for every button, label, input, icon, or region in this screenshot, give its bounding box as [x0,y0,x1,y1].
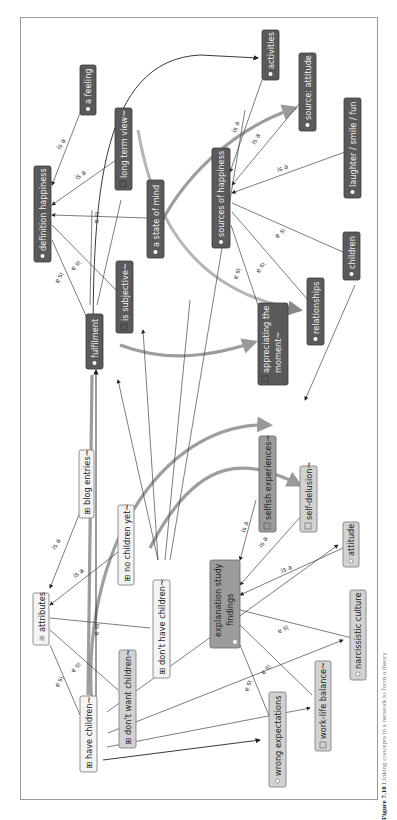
svg-text:is a: is a [250,132,262,146]
memo-icon [120,181,126,187]
svg-text:attitude: attitude [346,524,356,556]
node-have-children[interactable]: ⊞ have children~ [80,696,97,772]
bullet-icon [349,559,353,563]
figure-caption: Figure 7.10 Linking concepts in a networ… [380,652,388,820]
bullet-icon [356,672,360,676]
bullet-icon [86,107,90,111]
svg-text:laughter / smile / fun: laughter / smile / fun [348,102,358,188]
svg-text:is a: is a [93,624,101,635]
svg-text:is a: is a [243,679,254,692]
svg-text:is a: is a [53,271,65,285]
document-group-icon: ⊞ [123,738,133,745]
caption-text: Linking concepts in a network to form a … [380,652,388,784]
bullet-icon [351,190,355,194]
concept-network-diagram: is a is a is a is a is a is a is a is a … [0,0,397,820]
svg-text:is a: is a [74,169,88,182]
node-attitude[interactable]: attitude [343,522,359,567]
memo-icon [121,324,127,330]
node-dont-have-children[interactable]: ⊞ don't have children~ [153,579,170,678]
document-group-icon: ⊞ [84,762,94,769]
svg-text:selfish experiences~: selfish experiences~ [263,435,273,520]
node-children[interactable]: children [343,232,360,280]
svg-text:is a: is a [259,663,272,677]
svg-text:source: attitude: source: attitude [303,55,313,120]
svg-text:is a: is a [257,535,270,549]
svg-text:sources of happiness: sources of happiness [216,151,226,237]
svg-text:is a: is a [280,563,293,575]
memo-icon [320,742,326,748]
svg-text:definition happiness: definition happiness [38,168,48,251]
node-sources-of-happiness[interactable]: sources of happiness [212,148,230,248]
svg-text:moment~: moment~ [273,332,283,373]
node-work-life-balance[interactable]: work-life balance~ [315,661,331,751]
svg-text:work-life balance~: work-life balance~ [318,662,328,739]
svg-text:appreciating the: appreciating the [261,306,271,373]
svg-text:attributes: attributes [37,592,47,632]
gear-icon: ☼ [37,635,47,642]
svg-text:is a: is a [55,137,68,151]
svg-text:have children~: have children~ [84,697,94,759]
bullet-icon [233,640,237,644]
bullet-icon [93,361,97,365]
node-a-feeling[interactable]: a feeling [80,65,96,115]
svg-text:is a: is a [274,227,288,241]
node-fulfilment[interactable]: fulfilment [86,314,103,369]
svg-text:narcissistic culture: narcissistic culture [353,593,363,669]
node-relationships[interactable]: relationships [307,278,324,345]
bullet-icon [314,337,318,341]
nodes: a feeling definition happiness long term… [33,30,366,787]
svg-text:is a: is a [72,567,86,580]
memo-icon [264,523,270,529]
document-group-icon: ⊞ [82,508,92,515]
node-no-children-yet[interactable]: ⊞ no children yet~ [118,504,134,585]
node-self-delusion[interactable]: self-delusion~ [300,462,317,532]
node-is-subjective[interactable]: is subjective~ [116,261,133,333]
node-dont-want-children[interactable]: ⊞ don't want children~ [119,649,136,748]
bullet-icon [41,254,45,258]
svg-text:relationships: relationships [311,282,321,334]
svg-text:is a: is a [230,120,241,133]
memo-icon [305,523,311,529]
svg-text:is subjective~: is subjective~ [120,263,130,321]
svg-text:is a: is a [232,267,243,280]
node-appreciating-the-moment[interactable]: appreciating the moment~ [258,303,288,385]
svg-text:is a: is a [53,675,65,689]
bullet-icon [350,272,354,276]
svg-text:is a: is a [69,661,82,675]
bullet-icon [269,72,273,76]
node-blog-entries[interactable]: ⊞ blog entries~ [79,449,94,518]
svg-text:explanation study: explanation study [213,563,223,637]
svg-text:is a: is a [50,537,63,551]
node-attributes[interactable]: ☼ attributes [33,592,49,645]
node-laughter-smile-fun[interactable]: laughter / smile / fun [344,98,361,198]
node-long-term-view[interactable]: long term view~ [115,108,132,190]
caption-label: Figure 7.10 [380,786,388,820]
svg-text:is a: is a [239,520,250,533]
bullet-icon [306,123,310,127]
svg-text:no children yet~: no children yet~ [122,504,132,572]
node-wrong-expectations[interactable]: wrong expectations [269,692,286,787]
svg-text:is a: is a [276,163,289,174]
document-group-icon: ⊞ [122,575,132,582]
bullet-icon [154,250,158,254]
svg-text:activities: activities [266,32,276,69]
svg-text:long term view~: long term view~ [119,110,129,178]
node-source-attitude[interactable]: source: attitude [299,53,316,131]
svg-text:is a: is a [93,212,101,223]
svg-text:findings: findings [225,594,235,626]
bullet-icon [219,240,223,244]
svg-text:a feeling: a feeling [83,68,93,104]
node-explanation-study-findings[interactable]: explanation study findings [210,560,240,648]
node-selfish-experiences[interactable]: selfish experiences~ [259,435,276,532]
bullet-icon [276,779,280,783]
svg-text:fulfilment: fulfilment [90,318,100,358]
svg-text:a state of mind: a state of mind [151,185,161,247]
node-a-state-of-mind[interactable]: a state of mind [147,180,164,258]
svg-text:wrong expectations: wrong expectations [273,695,283,776]
node-activities[interactable]: activities [262,30,279,80]
node-definition-happiness[interactable]: definition happiness [34,166,51,262]
svg-text:don't want children~: don't want children~ [123,649,133,735]
node-narcissistic-culture[interactable]: narcissistic culture [350,590,366,680]
document-group-icon: ⊞ [157,668,167,675]
svg-text:children: children [347,236,357,269]
